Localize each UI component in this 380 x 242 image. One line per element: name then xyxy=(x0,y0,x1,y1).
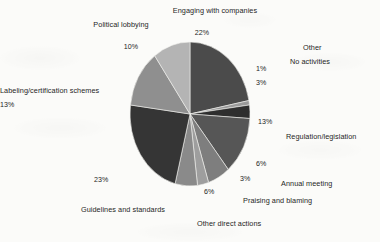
pie-value-labeling-certification-schemes: 13% xyxy=(0,101,126,109)
pie-label-praising-and-blaming: Praising and blaming xyxy=(243,197,312,205)
pie-value-annual-meeting: 6% xyxy=(256,160,266,168)
pie-value-other: 1% xyxy=(256,65,266,73)
pie-chart-graphic xyxy=(129,41,251,187)
pie-label-political-lobbying: Political lobbying xyxy=(76,21,166,29)
pie-label-engaging-with-companies: Engaging with companies xyxy=(155,7,275,15)
pie-chart-figure: Engaging with companies 22% Other 1% No … xyxy=(0,0,380,242)
pie-value-other-direct-actions: 6% xyxy=(204,188,214,196)
pie-value-political-lobbying: 10% xyxy=(116,43,146,51)
pie-label-no-activities: No activities xyxy=(290,58,330,66)
pie-label-labeling-certification-schemes: Labeling/certification schemes xyxy=(0,87,126,95)
pie-label-guidelines-and-standards: Guidelines and standards xyxy=(81,206,165,214)
pie-value-regulation-legislation: 13% xyxy=(258,118,272,126)
pie-value-guidelines-and-standards: 23% xyxy=(94,176,108,184)
pie-label-annual-meeting: Annual meeting xyxy=(281,180,332,188)
pie-slice-group xyxy=(130,42,250,186)
pie-label-other-direct-actions: Other direct actions xyxy=(197,220,261,228)
pie-label-other: Other xyxy=(303,44,322,52)
pie-label-regulation-legislation: Regulation/legislation xyxy=(286,133,356,141)
pie-value-engaging-with-companies: 22% xyxy=(187,29,217,37)
pie-svg xyxy=(129,41,251,187)
pie-value-praising-and-blaming: 3% xyxy=(240,175,250,183)
pie-value-no-activities: 3% xyxy=(256,79,266,87)
